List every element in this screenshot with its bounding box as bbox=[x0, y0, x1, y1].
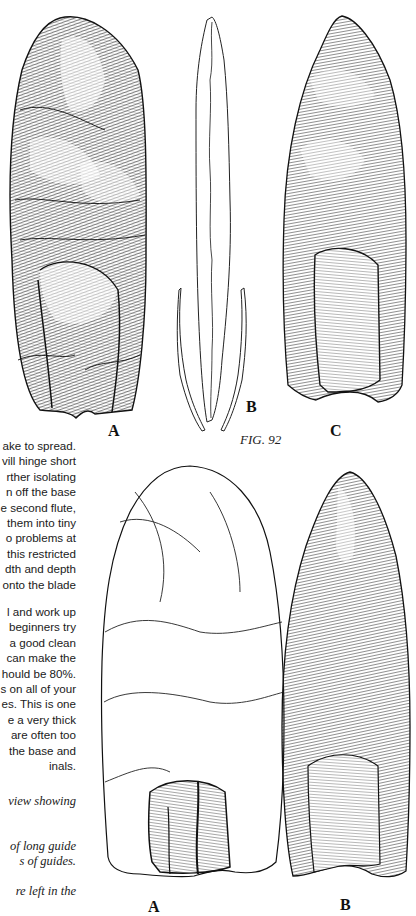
text-line: ake to spread. bbox=[0, 438, 76, 453]
text-line: can make the bbox=[0, 650, 76, 665]
figure-label-top-a: A bbox=[108, 422, 120, 440]
text-line: o problems at bbox=[0, 530, 76, 545]
text-line: es. This is one bbox=[0, 696, 76, 711]
caption-line: re left in the bbox=[0, 884, 76, 899]
caption-line bbox=[0, 809, 76, 824]
text-line: dth and depth bbox=[0, 561, 76, 576]
figure-number: FIG. 92 bbox=[240, 432, 281, 448]
illustration-top-a bbox=[0, 0, 150, 420]
caption-line: s of guides. bbox=[0, 854, 76, 869]
caption-line: view showing bbox=[0, 794, 76, 809]
text-line: them into tiny bbox=[0, 515, 76, 530]
text-line: onto the blade bbox=[0, 577, 76, 592]
figure-label-bottom-a: A bbox=[148, 898, 160, 916]
text-line: inals. bbox=[0, 758, 76, 773]
text-line: are often too bbox=[0, 727, 76, 742]
text-line: l and work up bbox=[0, 604, 76, 619]
text-line: hould be 80%. bbox=[0, 666, 76, 681]
text-line: this restricted bbox=[0, 546, 76, 561]
caption-line: of long guide bbox=[0, 839, 76, 854]
text-line: vill hinge short bbox=[0, 453, 76, 468]
body-text-paragraph-1: ake to spread. vill hinge short rther is… bbox=[0, 438, 76, 592]
illustration-top-c bbox=[260, 0, 416, 420]
caption-block: view showing of long guide s of guides. … bbox=[0, 794, 76, 899]
illustration-bottom-a bbox=[90, 462, 290, 902]
text-line: the base and bbox=[0, 743, 76, 758]
figure-label-bottom-b: B bbox=[340, 896, 351, 914]
text-line: s on all of your bbox=[0, 681, 76, 696]
text-line: n off the base bbox=[0, 484, 76, 499]
text-line: beginners try bbox=[0, 619, 76, 634]
text-line: rther isolating bbox=[0, 469, 76, 484]
text-line: e a very thick bbox=[0, 712, 76, 727]
figure-label-top-b: B bbox=[246, 398, 257, 416]
body-text-paragraph-2: l and work up beginners try a good clean… bbox=[0, 604, 76, 773]
text-line: e second flute, bbox=[0, 500, 76, 515]
figure-label-top-c: C bbox=[330, 422, 342, 440]
caption-line bbox=[0, 824, 76, 839]
illustration-bottom-b bbox=[268, 466, 416, 896]
caption-line bbox=[0, 869, 76, 884]
text-line: a good clean bbox=[0, 635, 76, 650]
illustration-top-b bbox=[150, 0, 260, 440]
